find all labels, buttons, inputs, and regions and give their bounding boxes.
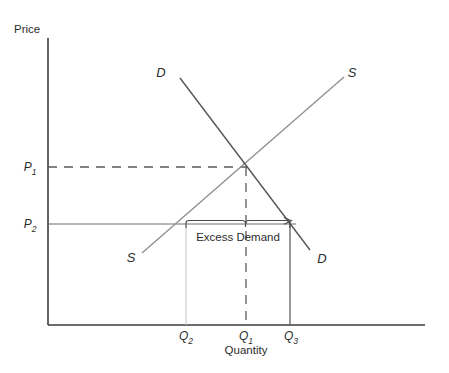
- supply-label-bottom: S: [127, 250, 136, 265]
- p1-base: P: [24, 160, 32, 174]
- supply-demand-chart: D D S S Price Quantity P1 P2 Q2 Q1: [0, 0, 449, 373]
- price-tick-labels: P1 P2: [24, 160, 37, 234]
- y-axis-title: Price: [14, 23, 40, 35]
- x-axis-title: Quantity: [225, 344, 268, 356]
- q2-sub: 2: [187, 336, 193, 346]
- q1-base: Q: [239, 329, 248, 343]
- supply-curve-line: [142, 77, 344, 253]
- supply-curve-group: [142, 77, 344, 253]
- annotations-group: Excess Demand: [196, 231, 280, 243]
- price-reference-lines: [48, 167, 296, 224]
- p2-tick-label: P2: [24, 217, 37, 234]
- p2-base: P: [24, 217, 32, 231]
- p1-tick-label: P1: [24, 160, 37, 177]
- excess-demand-label: Excess Demand: [196, 231, 280, 243]
- q3-sub: 3: [293, 336, 298, 346]
- chart-canvas: D D S S Price Quantity P1 P2 Q2 Q1: [0, 0, 449, 373]
- quantity-drop-lines: [186, 167, 290, 325]
- p1-sub: 1: [32, 167, 37, 177]
- demand-label-bottom: D: [317, 251, 326, 266]
- q2-base: Q: [179, 329, 188, 343]
- axis-titles-group: Price Quantity: [14, 23, 268, 356]
- q3-base: Q: [284, 329, 293, 343]
- supply-label-top: S: [348, 65, 357, 80]
- q1-sub: 1: [248, 336, 253, 346]
- q3-tick-label: Q3: [284, 329, 298, 346]
- p2-sub: 2: [31, 224, 37, 234]
- axes-group: [48, 38, 425, 325]
- q2-tick-label: Q2: [179, 329, 193, 346]
- excess-demand-bracket: [186, 218, 292, 229]
- demand-label-top: D: [156, 65, 165, 80]
